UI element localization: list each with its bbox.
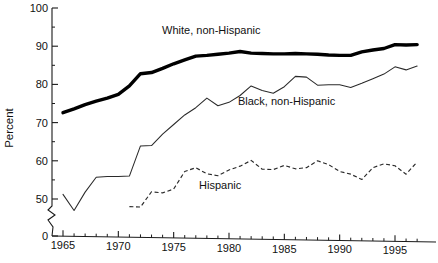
tick-labels: 0506070809010019651970197519801985199019… [30,2,408,256]
y-tick-label-80: 80 [36,78,48,90]
x-tick-label-1980: 1980 [217,242,241,254]
chart-figure: 0506070809010019651970197519801985199019… [0,0,438,263]
x-tick-label-1965: 1965 [51,239,75,251]
series-annotations: White, non-HispanicBlack, non-HispanicHi… [162,24,336,191]
x-tick-label-1995: 1995 [383,244,407,256]
y-axis-line [48,8,55,236]
y-tick-label-70: 70 [36,117,48,129]
x-tick-label-1970: 1970 [106,240,130,252]
y-tick-label-0: 0 [42,230,48,242]
y-tick-label-60: 60 [36,155,48,167]
y-tick-label-50: 50 [36,193,48,205]
axes [48,8,436,242]
line-chart: 0506070809010019651970197519801985199019… [0,0,438,263]
series-label-hispanic: Hispanic [199,179,242,191]
y-axis-title: Percent [3,107,15,147]
series-label-white-non-hispanic: White, non-Hispanic [162,24,261,36]
x-tick-label-1985: 1985 [272,243,296,255]
tick-marks [52,8,417,242]
x-tick-label-1990: 1990 [327,243,351,255]
y-tick-label-90: 90 [36,40,48,52]
series-label-black-non-hispanic: Black, non-Hispanic [238,95,336,107]
series-line-hispanic [129,160,417,207]
y-tick-label-100: 100 [30,2,48,14]
x-tick-label-1975: 1975 [161,241,185,253]
